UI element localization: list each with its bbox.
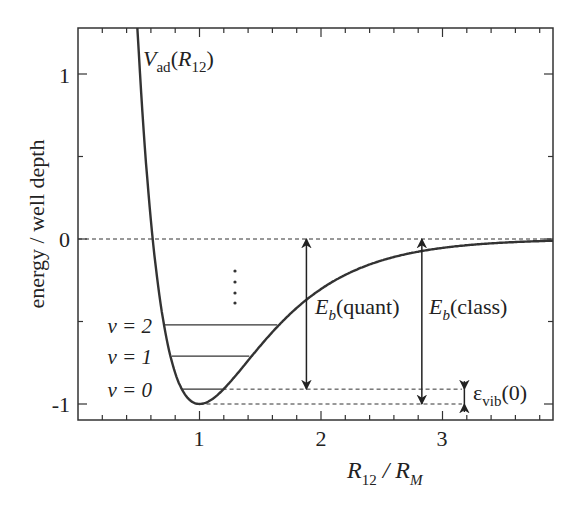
x-tick-label-3: 3	[437, 426, 448, 451]
level-label-v2: v = 2	[108, 314, 153, 338]
y-axis-label: energy / well depth	[24, 140, 49, 309]
epsilon-vib-label: εvib(0)	[473, 380, 527, 409]
level-label-v0: v = 0	[108, 378, 153, 402]
curve-label: Vad(R12)	[143, 46, 214, 75]
x-tick-label-2: 2	[316, 426, 327, 451]
energy-arrows	[306, 239, 464, 412]
level-label-v1: v = 1	[108, 345, 153, 369]
x-tick-label-1: 1	[194, 426, 205, 451]
y-tick-label-0: 0	[59, 227, 70, 252]
eb-quant-label: Eb(quant)	[314, 294, 399, 323]
vibrational-levels	[164, 325, 277, 389]
eb-class-label: Eb(class)	[428, 294, 507, 323]
y-tick-label-1: 1	[59, 63, 70, 88]
x-axis-label: R12 / RM	[346, 457, 424, 488]
potential-energy-diagram: 1 0 -1 1 2 3 energy / well depth R12 / R…	[0, 0, 578, 505]
ellipsis-dots	[233, 269, 236, 304]
y-tick-label-minus1: -1	[52, 392, 70, 417]
